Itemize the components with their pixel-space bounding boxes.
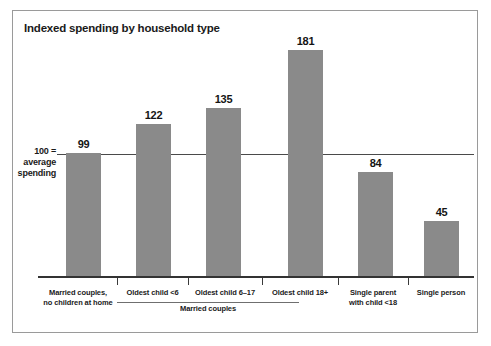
reference-label-line-2: average xyxy=(10,157,56,168)
group-bracket-line xyxy=(117,302,299,303)
group-bracket-label: Married couples xyxy=(117,304,299,313)
bar-value-label: 99 xyxy=(61,138,106,150)
bar-single-person[interactable] xyxy=(424,221,459,277)
category-label-single-person: Single person xyxy=(408,288,474,298)
axis-tick xyxy=(117,278,118,285)
axis-tick xyxy=(338,278,339,285)
bar-value-label: 45 xyxy=(419,206,464,218)
category-label-line: Oldest child 18+ xyxy=(262,288,338,298)
bar-oldest-child-18-plus[interactable] xyxy=(288,50,323,277)
axis-tick xyxy=(188,278,189,285)
bar-single-parent-with-child[interactable] xyxy=(358,172,393,277)
category-label-line: Single parent xyxy=(338,288,408,298)
reference-line-100 xyxy=(57,154,474,155)
reference-label-line-1: 100 = xyxy=(10,146,56,157)
axis-tick xyxy=(262,278,263,285)
plot-area: 100 = average spending 99 122 135 181 84… xyxy=(0,0,491,346)
category-label-line: no children at home xyxy=(38,298,118,308)
category-label-line: Married couples, xyxy=(38,288,118,298)
bar-value-label: 84 xyxy=(353,157,398,169)
category-label-oldest-child-under-6: Oldest child <6 xyxy=(117,288,188,298)
bar-oldest-child-6-17[interactable] xyxy=(206,108,241,277)
bar-oldest-child-under-6[interactable] xyxy=(136,124,171,277)
category-label-line: Oldest child <6 xyxy=(117,288,188,298)
category-label-line: with child <18 xyxy=(338,298,408,308)
category-label-oldest-child-18-plus: Oldest child 18+ xyxy=(262,288,338,298)
reference-label-line-3: spending xyxy=(10,168,56,179)
category-label-oldest-child-6-17: Oldest child 6–17 xyxy=(188,288,262,298)
category-label-line: Oldest child 6–17 xyxy=(188,288,262,298)
bar-married-couples-no-children[interactable] xyxy=(66,153,101,277)
chart-screenshot: Indexed spending by household type 100 =… xyxy=(0,0,491,346)
category-label-line: Single person xyxy=(408,288,474,298)
axis-tick xyxy=(408,278,409,285)
category-label-married-couples-no-children: Married couples, no children at home xyxy=(38,288,118,308)
bar-value-label: 135 xyxy=(201,93,246,105)
bar-value-label: 181 xyxy=(283,35,328,47)
reference-line-label: 100 = average spending xyxy=(10,146,56,179)
bar-value-label: 122 xyxy=(131,109,176,121)
category-label-single-parent: Single parent with child <18 xyxy=(338,288,408,308)
